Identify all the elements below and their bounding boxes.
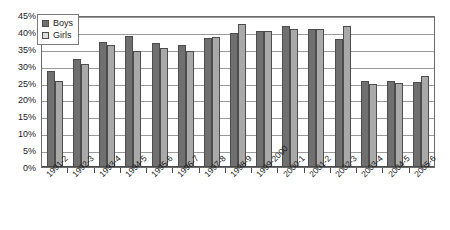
bar-girls xyxy=(81,64,89,167)
x-axis-labels: 1991-21992-31993-41994-51995-61996-71997… xyxy=(41,172,435,230)
bar-boys xyxy=(73,59,81,167)
bar-girls xyxy=(107,45,115,167)
y-tick-label: 10% xyxy=(18,130,36,139)
bar-boys xyxy=(99,42,107,167)
bar-girls xyxy=(133,51,141,167)
bar-boys xyxy=(413,82,421,167)
bar-group xyxy=(120,17,146,167)
bar-girls xyxy=(421,76,429,167)
bar-girls xyxy=(290,29,298,167)
bar-girls xyxy=(212,37,220,167)
bar-group xyxy=(251,17,277,167)
bar-boys xyxy=(47,71,55,167)
bar-boys xyxy=(387,81,395,167)
bar-group xyxy=(147,17,173,167)
y-axis: 45%40%35%30%25%20%15%10%5%0% xyxy=(0,0,38,230)
bar-group xyxy=(356,17,382,167)
y-tick-label: 20% xyxy=(18,96,36,105)
legend-item-boys: Boys xyxy=(42,17,73,29)
bar-girls xyxy=(238,24,246,167)
bar-boys xyxy=(230,33,238,167)
bar-group xyxy=(330,17,356,167)
y-tick-label: 35% xyxy=(18,46,36,55)
chart-legend: Boys Girls xyxy=(37,14,79,45)
bar-boys xyxy=(125,36,133,167)
bar-girls xyxy=(264,31,272,167)
bar-girls xyxy=(186,51,194,167)
bar-girls xyxy=(316,29,324,167)
y-tick-label: 5% xyxy=(23,147,36,156)
bar-group xyxy=(382,17,408,167)
bar-boys xyxy=(256,31,264,167)
bar-boys xyxy=(152,43,160,167)
bar-boys xyxy=(178,45,186,167)
y-tick-label: 25% xyxy=(18,80,36,89)
bar-girls xyxy=(160,48,168,167)
legend-label-girls: Girls xyxy=(53,31,72,40)
legend-swatch-girls-icon xyxy=(42,32,49,39)
bar-group xyxy=(225,17,251,167)
bar-group xyxy=(303,17,329,167)
y-tick-label: 0% xyxy=(23,164,36,173)
bars-layer xyxy=(42,17,434,167)
y-tick-label: 40% xyxy=(18,29,36,38)
bar-group xyxy=(199,17,225,167)
plot-area xyxy=(41,16,435,168)
bar-group xyxy=(173,17,199,167)
bar-boys xyxy=(361,81,369,167)
bar-girls xyxy=(343,26,351,167)
y-tick-label: 15% xyxy=(18,113,36,122)
bar-chart: 45%40%35%30%25%20%15%10%5%0% 1991-21992-… xyxy=(0,0,450,230)
legend-label-boys: Boys xyxy=(53,19,73,28)
bar-group xyxy=(408,17,434,167)
bar-group xyxy=(94,17,120,167)
legend-swatch-boys-icon xyxy=(42,20,49,27)
y-tick-label: 30% xyxy=(18,63,36,72)
bar-boys xyxy=(308,29,316,167)
bar-boys xyxy=(335,39,343,167)
bar-boys xyxy=(204,38,212,167)
y-tick-label: 45% xyxy=(18,12,36,21)
legend-item-girls: Girls xyxy=(42,29,73,41)
